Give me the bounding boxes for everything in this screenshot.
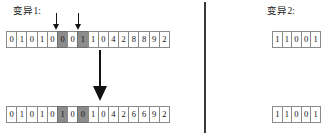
mutation-point-marker-2-icon (74, 13, 83, 31)
arrow-head (53, 24, 59, 30)
arrow-head (93, 86, 107, 101)
arrow-head (75, 24, 81, 30)
gene-cell: 1 (310, 31, 321, 48)
mutation-1-child-chromosome: 0101010010426692 (6, 106, 170, 123)
gene-cell: 2 (159, 31, 170, 48)
mutation-2-child-chromosome: 11001 (272, 106, 321, 123)
mutation-2-title: 变异2: (267, 3, 295, 17)
arrow-shaft (99, 50, 101, 89)
gene-cell: 2 (159, 106, 170, 123)
panel-divider (204, 2, 206, 133)
mutation-1-title: 变异1: (13, 3, 41, 17)
mutation-2-parent-chromosome: 11001 (272, 31, 321, 48)
gene-cell: 1 (310, 106, 321, 123)
mutation-point-marker-1-icon (52, 13, 61, 31)
mutation-transition-arrow-icon (92, 50, 108, 102)
mutation-1-parent-chromosome: 0101000110428892 (6, 31, 170, 48)
mutation-1-panel: 变异1: 0101000110428892 0101010010426692 (0, 0, 205, 135)
diagram-canvas: 变异1: 0101000110428892 0101010010426692 变… (0, 0, 321, 135)
mutation-2-panel: 变异2: 11001 11001 (210, 0, 321, 135)
